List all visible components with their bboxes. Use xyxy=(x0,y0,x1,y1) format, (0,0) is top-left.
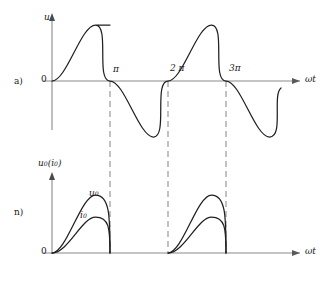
panel-n-origin-label: 0 xyxy=(41,246,47,256)
panel-n-y-axis-label-paren-close: ) xyxy=(58,158,62,168)
curve-label-i0-sub: 0 xyxy=(83,212,87,219)
tick-label-pi: π xyxy=(113,64,119,74)
panel-a-tag: a) xyxy=(14,76,23,86)
panel-n-x-axis-label: ωt xyxy=(305,246,316,256)
tick-label-2pi: 2 π xyxy=(170,63,185,73)
curve-label-i0: i0 xyxy=(80,210,87,220)
panel-n-y-arrow-icon xyxy=(49,172,55,180)
panel-n-y-axis-label: u0(i0) xyxy=(38,158,61,168)
panel-a-x-arrow-icon xyxy=(292,78,300,84)
panel-a-y-axis-label: u xyxy=(44,12,50,22)
curve-u0-pulse-2 xyxy=(168,195,226,253)
curve-u0-pulse-1 xyxy=(52,195,110,253)
tick-label-3pi: 3π xyxy=(229,63,241,73)
panel-a-x-axis-label: ωt xyxy=(305,74,316,84)
panel-a-origin-label: 0 xyxy=(41,74,47,84)
curve-label-u0-sub: 0 xyxy=(95,190,99,197)
panel-n-tag: n) xyxy=(14,207,23,217)
panel-n-x-arrow-icon xyxy=(292,250,300,256)
curve-label-u0: u0 xyxy=(89,188,99,198)
figure-canvas xyxy=(0,0,330,283)
